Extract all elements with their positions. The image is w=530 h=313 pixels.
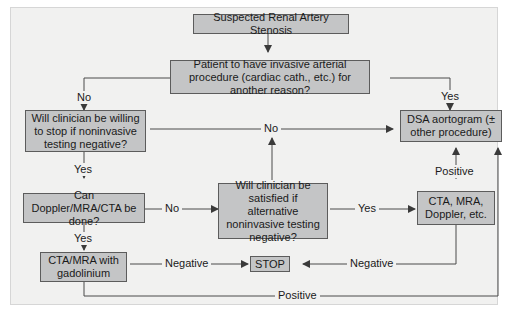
node-label: Will clinician be willing to stop if non… [30, 112, 141, 151]
node-label: CTA, MRA, Doppler, etc. [422, 195, 490, 221]
node-invasive-procedure-question: Patient to have invasive arterial proced… [170, 60, 370, 94]
edge-label-alt-negative: Negative [347, 257, 396, 270]
node-label: STOP [255, 258, 285, 271]
node-label: Will clinician be satisfied if alternati… [223, 179, 323, 244]
node-willing-to-stop-question: Will clinician be willing to stop if non… [25, 110, 146, 152]
edge-label-willing-yes: Yes [71, 163, 95, 176]
node-label: CTA/MRA with gadolinium [45, 254, 122, 280]
edge-label-can-do-no: No [162, 202, 182, 215]
edge-label-can-do-yes: Yes [71, 232, 95, 245]
node-label: DSA aortogram (± other procedure) [405, 113, 497, 139]
node-label: Suspected Renal Artery Stenosis [194, 11, 348, 37]
node-label: Patient to have invasive arterial proced… [177, 58, 363, 97]
edge-label-invasive-yes: Yes [438, 90, 462, 103]
node-label: Can Doppler/MRA/CTA be done? [28, 189, 140, 228]
edge-label-cta-positive: Positive [275, 289, 320, 302]
edge-label-invasive-no: No [74, 91, 94, 104]
edge-label-willing-no: No [261, 122, 281, 135]
node-satisfied-question: Will clinician be satisfied if alternati… [218, 183, 328, 239]
edge-label-satisfied-yes: Yes [355, 202, 379, 215]
edge-label-alt-positive: Positive [432, 165, 477, 178]
node-cta-mra-gadolinium: CTA/MRA with gadolinium [40, 252, 127, 282]
node-suspected-ras: Suspected Renal Artery Stenosis [193, 14, 349, 34]
node-alt-tests: CTA, MRA, Doppler, etc. [417, 191, 495, 225]
edge-label-cta-negative: Negative [162, 257, 211, 270]
node-dsa-aortogram: DSA aortogram (± other procedure) [400, 110, 502, 142]
node-can-noninvasive-question: Can Doppler/MRA/CTA be done? [23, 193, 145, 223]
node-stop: STOP [250, 256, 290, 272]
